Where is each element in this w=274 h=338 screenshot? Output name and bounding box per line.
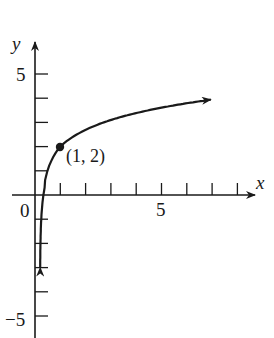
x-axis-label: x: [255, 172, 265, 193]
log-graph: y x 0 5 5 −5 (1, 2): [0, 0, 274, 338]
y-tick-label-neg5: −5: [5, 309, 25, 330]
x-tick-label-5: 5: [156, 199, 166, 220]
point-label: (1, 2): [66, 146, 105, 167]
y-tick-label-5: 5: [16, 64, 26, 85]
point-marker: [56, 143, 64, 151]
y-axis-label: y: [10, 33, 21, 54]
origin-label: 0: [20, 200, 30, 221]
curve: [40, 100, 211, 268]
x-ticks: [60, 183, 237, 195]
